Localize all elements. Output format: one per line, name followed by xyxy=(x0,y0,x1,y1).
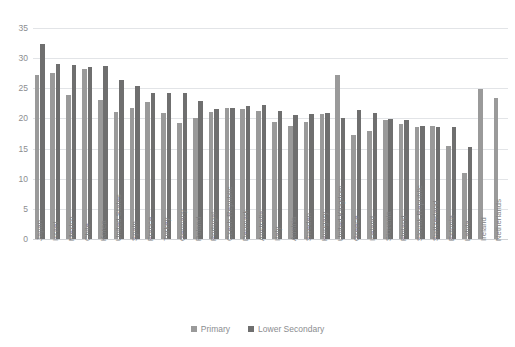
bar xyxy=(272,122,277,239)
bar xyxy=(40,44,45,239)
bar-group xyxy=(476,28,492,239)
legend-item[interactable]: Lower Secondary xyxy=(248,325,324,334)
x-axis-tick-label: Germany xyxy=(179,209,187,241)
x-axis-tick-label: Israel xyxy=(53,222,61,241)
bar-group xyxy=(366,28,382,239)
bar-group xyxy=(65,28,81,239)
bar-group xyxy=(286,28,302,239)
bar-group xyxy=(397,28,413,239)
x-axis-tick-label: Iceland xyxy=(369,216,377,241)
bar xyxy=(35,75,40,239)
bar-group xyxy=(255,28,271,239)
bar-group xyxy=(128,28,144,239)
x-axis-tick-label: Italy xyxy=(274,227,282,241)
legend-color-swatch xyxy=(191,326,197,332)
bar xyxy=(103,66,108,239)
legend-label: Primary xyxy=(201,325,230,334)
x-axis-tick-label: Ireland xyxy=(480,217,488,241)
x-axis-tick-label: Turkey xyxy=(163,217,171,241)
x-axis-tick-label: Greece xyxy=(353,215,361,241)
bar xyxy=(72,65,77,239)
x-axis-tick-label: Czech Republic xyxy=(227,186,235,241)
x-axis-tick-label: Austria xyxy=(290,217,298,241)
legend-item[interactable]: Primary xyxy=(191,325,230,334)
y-axis-tick-label: 15 xyxy=(2,144,28,153)
chart-legend: PrimaryLower Secondary xyxy=(0,325,515,334)
y-axis-tick-label: 30 xyxy=(2,54,28,63)
x-axis-tick-label: Mexico xyxy=(68,216,76,241)
y-axis-tick-label: 5 xyxy=(2,205,28,214)
bar-group xyxy=(350,28,366,239)
x-axis-tick-label: Latvia xyxy=(464,220,472,241)
x-axis-tick-label: Finland xyxy=(401,215,409,241)
bar-group xyxy=(461,28,477,239)
bar-group xyxy=(33,28,49,239)
x-axis-tick-label: Slovak Republic xyxy=(417,185,425,241)
bar-group xyxy=(381,28,397,239)
x-axis-tick-label: Switzerland xyxy=(433,201,441,241)
x-axis-tick-label: Chile xyxy=(84,223,92,241)
x-axis-tick-label: Spain xyxy=(132,221,140,241)
x-axis-tick-label: Japan xyxy=(37,220,45,241)
bar xyxy=(56,64,61,239)
bar-group xyxy=(49,28,65,239)
bar-group xyxy=(239,28,255,239)
x-axis-tick-label: United States xyxy=(116,194,124,241)
y-axis-tick-label: 0 xyxy=(2,235,28,244)
bar-group xyxy=(445,28,461,239)
bar xyxy=(135,86,140,239)
x-axis-tick-label: Portugal xyxy=(211,212,219,241)
bar-group xyxy=(176,28,192,239)
bar-group xyxy=(160,28,176,239)
x-axis-tick-label: France xyxy=(148,217,156,241)
bar xyxy=(50,73,55,239)
x-axis-tick-label: Hungary xyxy=(322,212,330,241)
bar-group xyxy=(191,28,207,239)
bar xyxy=(88,67,93,239)
legend-color-swatch xyxy=(248,326,254,332)
bar-group xyxy=(271,28,287,239)
bar-group xyxy=(144,28,160,239)
bar-group xyxy=(302,28,318,239)
bar-group xyxy=(96,28,112,239)
x-axis-tick-label: Australia xyxy=(258,211,266,241)
x-axis: JapanIsraelMexicoChileKoreaUnited States… xyxy=(33,241,508,319)
bar xyxy=(278,111,283,239)
y-axis-tick-label: 35 xyxy=(2,24,28,33)
bar-group xyxy=(207,28,223,239)
x-axis-tick-label: Denmark xyxy=(243,209,251,241)
bar xyxy=(98,100,103,239)
bar xyxy=(130,108,135,239)
y-axis-tick-label: 10 xyxy=(2,174,28,183)
x-axis-tick-label: Korea xyxy=(100,220,108,241)
x-axis-tick-label: Slovenia xyxy=(385,211,393,241)
x-axis-tick-label: Sweden xyxy=(306,213,314,241)
y-axis-tick-label: 20 xyxy=(2,114,28,123)
y-axis-tick-label: 25 xyxy=(2,84,28,93)
bar-group xyxy=(318,28,334,239)
x-axis-tick-label: United Kingdom xyxy=(338,186,346,241)
x-axis-tick-label: Poland xyxy=(195,217,203,241)
y-axis: 05101520253035 xyxy=(0,28,28,239)
bar xyxy=(82,69,87,239)
bar-group xyxy=(81,28,97,239)
x-axis-tick-label: Estonia xyxy=(448,215,456,241)
legend-label: Lower Secondary xyxy=(258,325,324,334)
x-axis-tick-label: Netherlands xyxy=(496,199,504,241)
chart-container: 05101520253035 JapanIsraelMexicoChileKor… xyxy=(0,0,515,347)
